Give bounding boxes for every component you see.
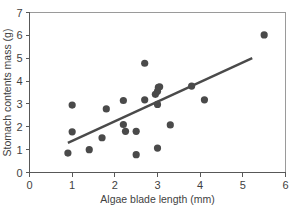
- y-tick-label: 1: [16, 144, 22, 156]
- y-axis-title: Stomach contents mass (g): [1, 29, 13, 157]
- data-point: [103, 105, 110, 112]
- y-tick-label: 0: [16, 167, 22, 179]
- x-axis-title: Algae blade length (mm): [100, 193, 214, 205]
- data-point: [201, 96, 208, 103]
- plot-canvas: 012345670123456Algae blade length (mm)St…: [0, 0, 296, 209]
- x-tick-label: 6: [282, 179, 288, 191]
- x-tick-label: 4: [197, 179, 203, 191]
- data-point: [133, 128, 140, 135]
- y-tick-label: 7: [16, 7, 22, 19]
- data-point: [98, 134, 105, 141]
- data-point: [86, 146, 93, 153]
- data-point: [156, 83, 163, 90]
- data-point: [133, 151, 140, 158]
- y-tick-label: 5: [16, 52, 22, 64]
- x-tick-label: 1: [69, 179, 75, 191]
- data-point: [64, 149, 71, 156]
- y-tick-label: 2: [16, 121, 22, 133]
- x-tick-label: 0: [26, 179, 32, 191]
- data-point: [120, 97, 127, 104]
- y-tick-label: 4: [16, 75, 22, 87]
- data-point: [69, 101, 76, 108]
- data-point: [141, 96, 148, 103]
- data-point: [141, 60, 148, 67]
- data-point: [154, 144, 161, 151]
- x-tick-label: 2: [112, 179, 118, 191]
- y-tick-label: 3: [16, 98, 22, 110]
- data-point: [188, 83, 195, 90]
- y-tick-label: 6: [16, 29, 22, 41]
- data-point: [167, 121, 174, 128]
- data-point: [69, 128, 76, 135]
- regression-trend-line: [68, 58, 252, 143]
- data-point: [122, 128, 129, 135]
- x-tick-label: 3: [154, 179, 160, 191]
- data-point: [261, 31, 268, 38]
- scatter-plot-figure: 012345670123456Algae blade length (mm)St…: [0, 0, 296, 209]
- x-tick-label: 5: [240, 179, 246, 191]
- data-point: [154, 101, 161, 108]
- data-point: [120, 121, 127, 128]
